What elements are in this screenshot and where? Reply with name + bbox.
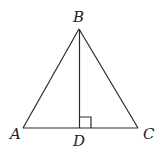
segment-ab bbox=[23, 29, 79, 128]
label-b: B bbox=[72, 8, 84, 26]
label-a: A bbox=[8, 125, 21, 143]
label-d: D bbox=[72, 132, 85, 150]
right-angle-marker-icon bbox=[80, 117, 92, 128]
segment-bc bbox=[79, 29, 138, 128]
label-c: C bbox=[143, 125, 155, 143]
triangle-diagram: B A C D bbox=[0, 0, 162, 153]
